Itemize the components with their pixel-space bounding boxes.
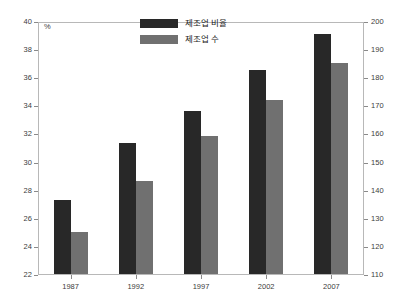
x-axis-tick-label: 2007 <box>311 282 351 291</box>
left-axis-tick-label: 26 <box>10 214 32 223</box>
right-axis-tick-mark <box>364 275 368 276</box>
right-axis-tick-mark <box>364 247 368 248</box>
x-axis-tick-label: 2002 <box>246 282 286 291</box>
right-axis-tick-label: 110 <box>371 270 395 279</box>
right-axis-tick-mark <box>364 106 368 107</box>
bar-2002-count <box>266 100 283 274</box>
left-axis-tick-mark <box>34 134 38 135</box>
right-axis-tick-mark <box>364 163 368 164</box>
right-axis-tick-mark <box>364 219 368 220</box>
right-axis-tick-mark <box>364 191 368 192</box>
right-axis-tick-label: 150 <box>371 158 395 167</box>
legend-swatch-icon <box>140 19 178 28</box>
bar-1987-ratio <box>54 200 71 274</box>
left-axis-tick-mark <box>34 191 38 192</box>
left-axis-tick-label: 32 <box>10 129 32 138</box>
left-axis-tick-mark <box>34 275 38 276</box>
right-axis-tick-label: 120 <box>371 242 395 251</box>
right-axis-tick-label: 130 <box>371 214 395 223</box>
left-axis-tick-mark <box>34 78 38 79</box>
left-axis-tick-label: 38 <box>10 45 32 54</box>
right-axis-tick-mark <box>364 134 368 135</box>
legend: 제조업 비율제조업 수 <box>140 17 227 49</box>
x-axis-tick-label: 1992 <box>116 282 156 291</box>
left-axis-tick-mark <box>34 106 38 107</box>
left-axis-tick-label: 24 <box>10 242 32 251</box>
right-axis-tick-mark <box>364 50 368 51</box>
right-axis-tick-mark <box>364 22 368 23</box>
right-axis-tick-label: 140 <box>371 186 395 195</box>
left-axis-tick-mark <box>34 219 38 220</box>
x-axis-tick-mark <box>331 275 332 279</box>
legend-label: 제조업 수 <box>185 35 219 44</box>
legend-item: 제조업 비율 <box>140 17 227 30</box>
x-axis-tick-label: 1997 <box>181 282 221 291</box>
bar-2007-count <box>331 63 348 274</box>
left-axis-tick-label: 28 <box>10 186 32 195</box>
left-axis-tick-mark <box>34 22 38 23</box>
right-axis-tick-label: 200 <box>371 17 395 26</box>
right-axis-tick-label: 190 <box>371 45 395 54</box>
left-axis-tick-label: 36 <box>10 73 32 82</box>
right-axis-tick-mark <box>364 78 368 79</box>
legend-item: 제조업 수 <box>140 33 227 46</box>
bar-1997-count <box>201 136 218 274</box>
x-axis-tick-mark <box>266 275 267 279</box>
bar-1992-count <box>136 181 153 274</box>
bar-1992-ratio <box>119 143 136 274</box>
right-axis-tick-label: 170 <box>371 101 395 110</box>
legend-label: 제조업 비율 <box>185 19 227 28</box>
x-axis-tick-mark <box>71 275 72 279</box>
right-axis-tick-label: 160 <box>371 129 395 138</box>
bar-2002-ratio <box>249 70 266 274</box>
bars-layer <box>39 23 363 274</box>
bar-1997-ratio <box>184 111 201 274</box>
left-axis-tick-mark <box>34 50 38 51</box>
left-axis-tick-mark <box>34 247 38 248</box>
right-axis-tick-label: 180 <box>371 73 395 82</box>
left-axis-tick-label: 30 <box>10 158 32 167</box>
bar-1987-count <box>71 232 88 274</box>
bar-chart: % 22242628303234363840 11012013014015016… <box>0 0 404 300</box>
left-axis-tick-mark <box>34 163 38 164</box>
bar-2007-ratio <box>314 34 331 274</box>
legend-swatch-icon <box>140 35 178 44</box>
x-axis-tick-label: 1987 <box>51 282 91 291</box>
x-axis-tick-mark <box>136 275 137 279</box>
x-axis-tick-mark <box>201 275 202 279</box>
left-axis-tick-label: 34 <box>10 101 32 110</box>
left-axis-tick-label: 40 <box>10 17 32 26</box>
left-axis-tick-label: 22 <box>10 270 32 279</box>
